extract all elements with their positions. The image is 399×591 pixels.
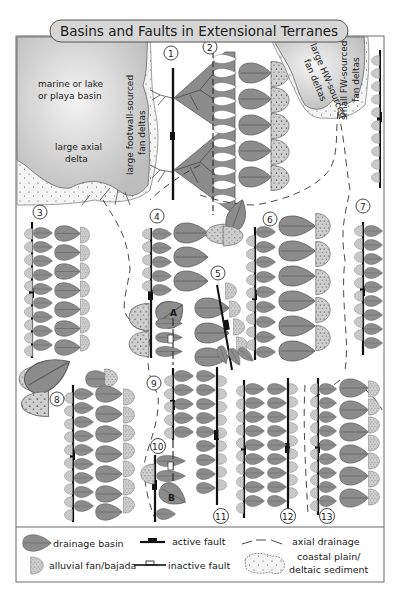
- svg-text:13: 13: [321, 512, 332, 522]
- svg-text:8: 8: [54, 395, 60, 405]
- label-small-fw-2: fan deltas: [351, 57, 361, 102]
- svg-text:9: 9: [151, 379, 157, 389]
- svg-text:inactive fault: inactive fault: [168, 560, 230, 571]
- label-fw-fan-deltas-1: large footwall-sourced: [125, 75, 135, 175]
- setting-number-7: 7: [356, 199, 370, 213]
- setting-number-5: 5: [211, 266, 225, 280]
- diagram-canvas: marine or lake or playa basin large axia…: [0, 0, 399, 591]
- setting-number-12: 12: [281, 509, 296, 524]
- label-axial-delta-1: large axial: [55, 142, 102, 152]
- setting-number-9: 9: [147, 376, 161, 390]
- svg-text:2: 2: [207, 43, 213, 53]
- svg-text:11: 11: [215, 512, 226, 522]
- svg-text:6: 6: [267, 215, 273, 225]
- svg-text:axial drainage: axial drainage: [292, 536, 360, 547]
- label-marine-basin-2: or playa basin: [38, 91, 102, 101]
- setting-number-6: 6: [263, 212, 277, 226]
- svg-text:7: 7: [360, 202, 366, 212]
- svg-text:3: 3: [37, 208, 43, 218]
- setting-number-1: 1: [164, 46, 178, 60]
- setting-9: [164, 368, 215, 440]
- point-b-label: B: [168, 493, 175, 503]
- setting-number-4: 4: [150, 209, 164, 223]
- svg-text:alluvial fan/bajada: alluvial fan/bajada: [49, 560, 136, 571]
- svg-text:5: 5: [215, 269, 221, 279]
- svg-text:4: 4: [154, 212, 160, 222]
- page-title: Basins and Faults in Extensional Terrane…: [60, 23, 338, 39]
- title-banner: Basins and Faults in Extensional Terrane…: [50, 20, 348, 42]
- svg-text:10: 10: [152, 442, 164, 452]
- setting-number-11: 11: [214, 509, 229, 524]
- setting-number-13: 13: [320, 509, 335, 524]
- svg-text:coastal plain/: coastal plain/: [297, 551, 361, 562]
- label-axial-delta-2: delta: [65, 154, 88, 164]
- setting-number-10: 10: [151, 439, 166, 454]
- svg-text:1: 1: [168, 49, 174, 59]
- svg-text:active fault: active fault: [172, 536, 226, 547]
- point-a-label: A: [170, 308, 177, 318]
- svg-text:drainage basin: drainage basin: [53, 538, 124, 549]
- legend-drainage-basin: drainage basin: [23, 535, 124, 551]
- setting-number-3: 3: [33, 205, 47, 219]
- svg-text:12: 12: [282, 512, 293, 522]
- svg-text:deltaic sediment: deltaic sediment: [289, 564, 369, 575]
- label-marine-basin-1: marine or lake: [38, 79, 104, 89]
- label-fw-fan-deltas-2: fan deltas: [137, 110, 147, 155]
- label-small-fw-1: small FW-sourced: [339, 41, 349, 120]
- setting-number-8: 8: [50, 392, 64, 406]
